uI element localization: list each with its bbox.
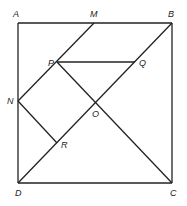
label-r: R [61,140,68,150]
segment-nr [18,101,57,143]
label-o: O [92,109,99,119]
label-d: D [15,188,22,198]
segment-pc [57,62,172,183]
label-a: A [12,9,19,19]
label-p: P [48,58,54,68]
label-c: C [170,188,177,198]
label-b: B [168,9,174,19]
label-q: Q [139,58,146,68]
label-m: M [90,9,98,19]
geometry-diagram: A M B N P Q O R D C [0,0,187,206]
label-n: N [7,96,14,106]
